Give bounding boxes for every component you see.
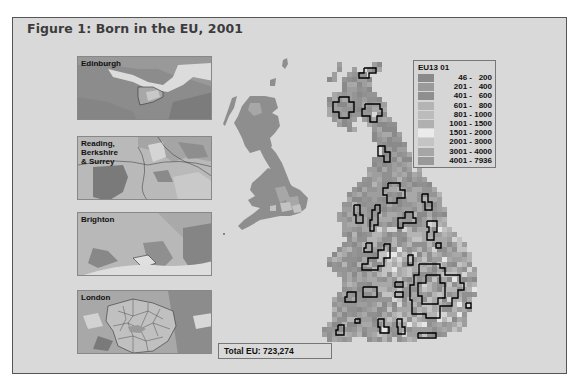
inset-label: Brighton: [81, 215, 114, 224]
inset-label: London: [81, 293, 110, 302]
inset-london: London: [77, 290, 212, 354]
legend-swatch: [418, 102, 434, 110]
inset-label: Edinburgh: [81, 59, 121, 68]
legend-swatch: [418, 83, 434, 91]
inset-label: Reading, Berkshire & Surrey: [81, 139, 118, 166]
legend-label: 46 - 200: [458, 73, 492, 82]
legend-swatch: [418, 157, 434, 165]
legend-swatch: [418, 138, 434, 146]
legend-label: 3001 - 4000: [449, 147, 492, 156]
legend-swatch: [418, 148, 434, 156]
legend-item: 4001 - 7936: [418, 157, 494, 166]
inset-reading-berkshire-surrey: Reading, Berkshire & Surrey: [77, 136, 212, 200]
legend-swatch: [418, 92, 434, 100]
legend-title: EU13 01: [418, 63, 449, 72]
legend-label: 1501 - 2000: [449, 128, 492, 137]
total-eu-label: Total EU: 723,274: [224, 346, 294, 356]
legend-label: 801 - 1000: [454, 110, 492, 119]
legend-swatch: [418, 120, 434, 128]
legend-swatch: [418, 74, 434, 82]
legend-label: 4001 - 7936: [449, 156, 492, 165]
legend-label: 201 - 400: [454, 82, 492, 91]
legend-label: 401 - 600: [454, 91, 492, 100]
great-britain-map: [220, 58, 325, 243]
legend-swatch: [418, 129, 434, 137]
legend: EU13 01 46 - 200201 - 400401 - 600601 - …: [413, 60, 496, 168]
inset-edinburgh: Edinburgh: [77, 56, 212, 120]
legend-label: 2001 - 3000: [449, 137, 492, 146]
total-eu-box: Total EU: 723,274: [218, 343, 332, 359]
figure-title: Figure 1: Born in the EU, 2001: [27, 21, 243, 36]
legend-label: 601 - 800: [454, 101, 492, 110]
legend-swatch: [418, 111, 434, 119]
legend-label: 1001 - 1500: [449, 119, 492, 128]
inset-brighton: Brighton: [77, 212, 212, 276]
